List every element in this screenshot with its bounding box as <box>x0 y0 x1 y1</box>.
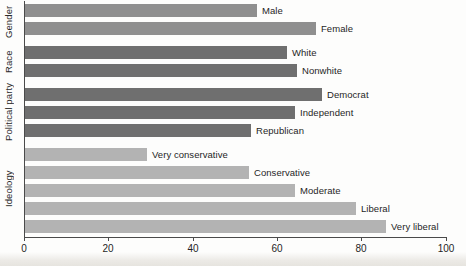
group-label-race: Race <box>2 44 15 80</box>
bar-very-conservative <box>25 148 147 161</box>
x-tick-0 <box>24 237 25 241</box>
bar-label-liberal: Liberal <box>361 202 390 215</box>
group-label-ideology: Ideology <box>2 142 15 236</box>
page-background-tint <box>0 252 466 266</box>
x-tick-80 <box>361 237 362 241</box>
bar-label-republican: Republican <box>256 124 304 137</box>
bar-liberal <box>25 202 356 215</box>
bar-very-liberal <box>25 220 386 233</box>
bar-independent <box>25 106 295 119</box>
group-label-gender: Gender <box>2 2 15 42</box>
bar-nonwhite <box>25 64 297 77</box>
bar-male <box>25 4 257 17</box>
bar-label-conservative: Conservative <box>254 166 310 179</box>
bar-republican <box>25 124 251 137</box>
bar-label-democrat: Democrat <box>327 88 369 101</box>
bar-label-independent: Independent <box>300 106 353 119</box>
bar-label-moderate: Moderate <box>300 184 341 197</box>
x-tick-100 <box>446 237 447 241</box>
bar-label-very-conservative: Very conservative <box>152 148 228 161</box>
horizontal-bar-chart: Gender Race Political party Ideology Mal… <box>0 0 466 266</box>
bar-label-nonwhite: Nonwhite <box>302 64 342 77</box>
bar-democrat <box>25 88 322 101</box>
group-label-political-party: Political party <box>2 84 15 140</box>
bar-moderate <box>25 184 295 197</box>
x-tick-20 <box>108 237 109 241</box>
bar-label-female: Female <box>321 22 353 35</box>
bar-label-white: White <box>292 46 317 59</box>
x-tick-60 <box>277 237 278 241</box>
bar-white <box>25 46 287 59</box>
bar-conservative <box>25 166 249 179</box>
plot-area: Male Female White Nonwhite Democrat Inde… <box>24 1 447 238</box>
bar-label-very-liberal: Very liberal <box>391 220 439 233</box>
bar-label-male: Male <box>262 4 283 17</box>
x-tick-40 <box>193 237 194 241</box>
bar-female <box>25 22 316 35</box>
